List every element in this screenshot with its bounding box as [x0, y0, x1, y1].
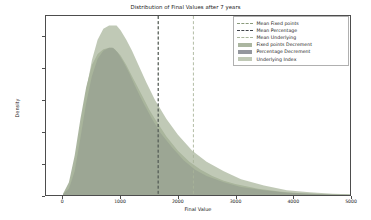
x-tick-label: 0 — [61, 199, 64, 204]
legend-label: Mean Fixed points — [257, 20, 299, 27]
legend-item: Mean Fixed points — [237, 20, 345, 27]
x-tick-mark — [178, 196, 179, 199]
x-tick-mark — [120, 196, 121, 199]
x-tick-label: 3000 — [230, 199, 242, 204]
legend-item: Percentage Decrement — [237, 48, 345, 55]
legend-line-swatch — [237, 34, 253, 41]
dashed-line-icon — [237, 37, 253, 38]
y-axis-label: Density — [14, 78, 20, 138]
x-tick-mark — [236, 196, 237, 199]
chart-title: Distribution of Final Values after 7 yea… — [0, 4, 371, 10]
x-axis-label: Final Value — [45, 206, 351, 212]
legend-item: Mean Underlying — [237, 34, 345, 41]
color-patch-icon — [238, 57, 252, 61]
x-tick-label: 2000 — [172, 199, 184, 204]
color-patch-icon — [238, 50, 252, 54]
dashed-line-icon — [237, 23, 253, 24]
x-tick-label: 4000 — [287, 199, 299, 204]
legend-label: Fixed points Decrement — [257, 41, 313, 48]
y-tick-mark — [42, 164, 45, 165]
y-tick-mark — [42, 100, 45, 101]
y-tick-mark — [42, 68, 45, 69]
chart-legend: Mean Fixed pointsMean PercentageMean Und… — [233, 16, 349, 66]
x-tick-mark — [293, 196, 294, 199]
x-tick-mark — [351, 196, 352, 199]
y-tick-mark — [42, 132, 45, 133]
legend-patch-swatch — [237, 48, 253, 55]
legend-item: Mean Percentage — [237, 27, 345, 34]
legend-item: Underlying Index — [237, 55, 345, 62]
dashed-line-icon — [237, 30, 253, 31]
x-tick-label: 1000 — [114, 199, 126, 204]
color-patch-icon — [238, 43, 252, 47]
legend-patch-swatch — [237, 41, 253, 48]
legend-line-swatch — [237, 20, 253, 27]
legend-label: Mean Percentage — [257, 27, 298, 34]
x-tick-label: 5000 — [345, 199, 357, 204]
legend-label: Percentage Decrement — [257, 48, 311, 55]
y-tick-mark — [42, 196, 45, 197]
legend-label: Mean Underlying — [257, 34, 297, 41]
chart-figure: Distribution of Final Values after 7 yea… — [0, 0, 371, 220]
legend-patch-swatch — [237, 56, 253, 63]
legend-line-swatch — [237, 27, 253, 34]
legend-item: Fixed points Decrement — [237, 41, 345, 48]
x-tick-mark — [62, 196, 63, 199]
legend-label: Underlying Index — [257, 56, 297, 63]
y-tick-mark — [42, 36, 45, 37]
